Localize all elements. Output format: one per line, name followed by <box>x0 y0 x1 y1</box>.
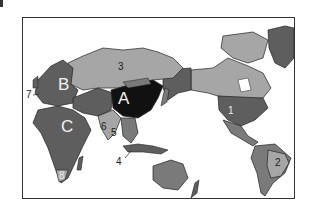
canada-shape <box>191 58 271 100</box>
number-label-7: 7 <box>26 90 32 100</box>
middle-east-shape <box>73 88 113 116</box>
number-label-1: 1 <box>228 106 234 116</box>
madagascar-shape <box>77 156 83 170</box>
japan-shape <box>161 88 169 106</box>
number-label-4: 4 <box>116 157 122 167</box>
map-frame: A B C 1 2 3 4 5 6 7 8 <box>22 17 295 199</box>
region-label-b: B <box>58 76 69 93</box>
uk-shape <box>33 76 38 88</box>
number-label-3: 3 <box>118 62 124 72</box>
number-label-6: 6 <box>101 122 107 132</box>
region-label-c: C <box>61 118 73 135</box>
greenland-shape <box>268 26 294 68</box>
new-zealand-shape <box>191 180 199 198</box>
number-label-5: 5 <box>111 128 117 138</box>
southeast-asia-shape <box>121 118 138 143</box>
region-label-a: A <box>118 90 129 107</box>
number-label-2: 2 <box>275 158 281 168</box>
corner-mark <box>0 0 3 7</box>
australia-shape <box>153 160 188 190</box>
number-label-8: 8 <box>59 171 65 181</box>
